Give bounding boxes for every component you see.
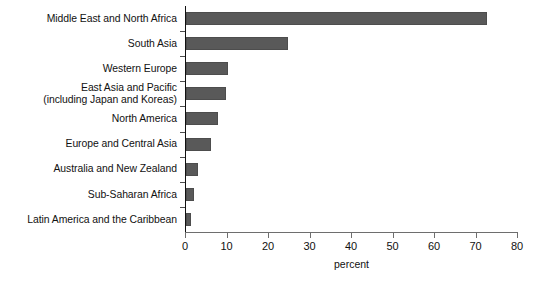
x-axis-tick <box>310 233 311 238</box>
x-axis-tick-label: 40 <box>331 240 371 252</box>
chart-row: Western Europe <box>0 56 536 81</box>
bar <box>186 112 218 125</box>
bar <box>186 188 194 201</box>
chart-row: North America <box>0 106 536 131</box>
x-axis-tick <box>185 233 186 238</box>
bar <box>186 12 487 25</box>
x-axis-tick <box>476 233 477 238</box>
x-axis-tick-label: 0 <box>165 240 205 252</box>
bar <box>186 138 211 151</box>
bar <box>186 62 228 75</box>
x-axis-tick-label: 70 <box>456 240 496 252</box>
bar <box>186 163 198 176</box>
x-axis-tick-label: 60 <box>414 240 454 252</box>
bar <box>186 87 226 100</box>
category-label: Europe and Central Asia <box>5 138 177 150</box>
x-axis-title: percent <box>185 258 518 270</box>
chart-rows: Middle East and North AfricaSouth AsiaWe… <box>0 6 536 232</box>
x-axis-tick <box>351 233 352 238</box>
x-axis-tick <box>227 233 228 238</box>
bar <box>186 213 191 226</box>
x-axis-tick <box>517 233 518 238</box>
category-label: South Asia <box>5 38 177 50</box>
x-axis-tick-label: 80 <box>497 240 536 252</box>
chart-row: East Asia and Pacific (including Japan a… <box>0 81 536 106</box>
bar <box>186 37 288 50</box>
chart-row: Sub-Saharan Africa <box>0 182 536 207</box>
category-label: Middle East and North Africa <box>5 13 177 25</box>
chart-row: Australia and New Zealand <box>0 157 536 182</box>
chart-row: South Asia <box>0 31 536 56</box>
chart-row: Latin America and the Caribbean <box>0 207 536 232</box>
chart-row: Europe and Central Asia <box>0 132 536 157</box>
category-label: Latin America and the Caribbean <box>5 214 177 226</box>
x-axis-tick-label: 10 <box>207 240 247 252</box>
x-axis-tick-label: 30 <box>290 240 330 252</box>
category-label: Australia and New Zealand <box>5 163 177 175</box>
category-label: North America <box>5 113 177 125</box>
x-axis-tick <box>268 233 269 238</box>
bar-chart: Middle East and North AfricaSouth AsiaWe… <box>0 0 536 282</box>
x-axis-tick-label: 50 <box>373 240 413 252</box>
x-axis-tick <box>434 233 435 238</box>
category-label: Western Europe <box>5 63 177 75</box>
x-axis-tick-label: 20 <box>248 240 288 252</box>
x-axis-tick <box>393 233 394 238</box>
category-label: East Asia and Pacific (including Japan a… <box>5 82 177 105</box>
category-label: Sub-Saharan Africa <box>5 189 177 201</box>
chart-row: Middle East and North Africa <box>0 6 536 31</box>
